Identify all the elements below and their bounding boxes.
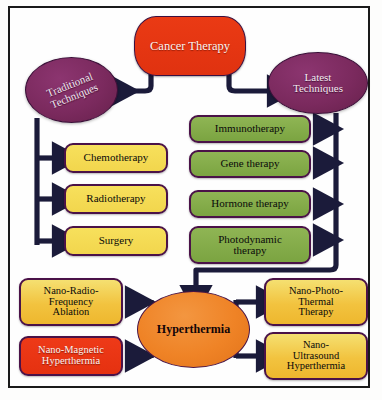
node-chemotherapy-label: Chemotherapy [84, 152, 149, 163]
node-nano-radio-frequency-ablation-line3: Ablation [53, 306, 90, 317]
node-nano-radio-frequency-ablation-label: Nano-Radio- Frequency Ablation [44, 286, 99, 319]
node-nano-ultrasound-hyperthermia-line3: Hyperthermia [287, 360, 345, 371]
node-hyperthermia[interactable]: Hyperthermia [137, 291, 250, 368]
node-traditional-techniques[interactable]: Traditional Techniques [25, 57, 118, 123]
node-cancer-therapy-label: Cancer Therapy [150, 40, 230, 53]
node-nano-photo-thermal-therapy[interactable]: Nano-Photo- Thermal Therapy [264, 278, 368, 326]
node-radiotherapy[interactable]: Radiotherapy [64, 184, 168, 214]
node-hyperthermia-label: Hyperthermia [157, 323, 230, 335]
node-latest-techniques-label: Latest Techniques [293, 72, 343, 95]
node-nano-photo-thermal-therapy-line3: Therapy [299, 306, 334, 317]
node-chemotherapy[interactable]: Chemotherapy [64, 143, 168, 173]
node-nano-ultrasound-hyperthermia-label: Nano- Ultrasound Hyperthermia [287, 340, 345, 373]
node-nano-photo-thermal-therapy-label: Nano-Photo- Thermal Therapy [289, 286, 343, 319]
node-photodynamic-therapy-line2: therapy [234, 244, 267, 256]
node-traditional-techniques-label: Traditional Techniques [44, 69, 100, 111]
node-nano-radio-frequency-ablation-line2: Frequency [49, 296, 93, 307]
node-hormone-therapy-label: Hormone therapy [211, 198, 288, 209]
node-nano-ultrasound-hyperthermia-line1: Nano- [303, 339, 329, 350]
node-cancer-therapy[interactable]: Cancer Therapy [134, 16, 246, 76]
node-hormone-therapy[interactable]: Hormone therapy [189, 190, 311, 218]
node-nano-ultrasound-hyperthermia[interactable]: Nano- Ultrasound Hyperthermia [264, 332, 368, 380]
node-photodynamic-therapy-line1: Photodynamic [218, 233, 282, 245]
node-nano-magnetic-hyperthermia-line2: Hyperthermia [42, 355, 100, 366]
node-nano-magnetic-hyperthermia-label: Nano-Magnetic Hyperthermia [38, 345, 104, 367]
node-latest-techniques-line1: Latest [305, 71, 332, 83]
node-radiotherapy-label: Radiotherapy [86, 193, 145, 204]
node-nano-photo-thermal-therapy-line2: Thermal [298, 296, 334, 307]
node-nano-ultrasound-hyperthermia-line2: Ultrasound [293, 350, 340, 361]
node-nano-radio-frequency-ablation-line1: Nano-Radio- [44, 285, 99, 296]
node-immunotherapy-label: Immunotherapy [215, 123, 285, 134]
node-surgery[interactable]: Surgery [64, 226, 168, 256]
node-photodynamic-therapy-label: Photodynamic therapy [218, 234, 282, 257]
diagram-canvas: Cancer Therapy Traditional Techniques La… [0, 0, 382, 400]
arrow-root-to-latest [229, 74, 270, 91]
node-nano-magnetic-hyperthermia-line1: Nano-Magnetic [38, 344, 104, 355]
node-nano-photo-thermal-therapy-line1: Nano-Photo- [289, 285, 343, 296]
node-photodynamic-therapy[interactable]: Photodynamic therapy [189, 226, 311, 264]
node-latest-techniques-line2: Techniques [293, 82, 343, 94]
node-nano-radio-frequency-ablation[interactable]: Nano-Radio- Frequency Ablation [19, 278, 123, 326]
node-immunotherapy[interactable]: Immunotherapy [189, 115, 311, 143]
node-nano-magnetic-hyperthermia[interactable]: Nano-Magnetic Hyperthermia [19, 336, 123, 376]
node-gene-therapy-label: Gene therapy [221, 158, 280, 169]
node-surgery-label: Surgery [99, 235, 134, 246]
node-gene-therapy[interactable]: Gene therapy [189, 150, 311, 178]
node-latest-techniques[interactable]: Latest Techniques [268, 52, 368, 114]
